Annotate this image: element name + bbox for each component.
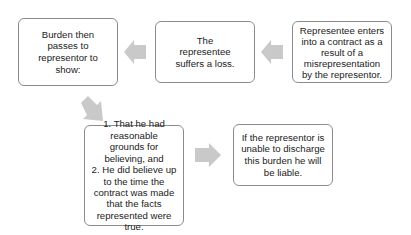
conditions-content: 1. That he had reasonable grounds for be… (89, 118, 179, 232)
arrow-right-icon (195, 142, 222, 168)
condition-1-text: 1. That he had reasonable grounds for be… (89, 118, 179, 164)
suffers-loss-text: The representee suffers a loss. (160, 35, 250, 70)
liable-text: If the representor is unable to discharg… (238, 132, 328, 178)
box-conditions: 1. That he had reasonable grounds for be… (84, 125, 184, 226)
condition-2-text: 2. He did believe up to the time the con… (89, 164, 179, 232)
box-representee-enters: Representee enters into a contract as a … (292, 21, 392, 83)
arrow-left-icon (261, 39, 284, 65)
box-suffers-loss: The representee suffers a loss. (155, 21, 255, 83)
box-liable: If the representor is unable to discharg… (233, 124, 333, 186)
box-burden-passes: Burden then passes to representor to sho… (18, 18, 118, 86)
arrow-left-icon (124, 39, 147, 65)
representee-enters-text: Representee enters into a contract as a … (297, 25, 387, 80)
burden-passes-text: Burden then passes to representor to sho… (23, 29, 113, 75)
